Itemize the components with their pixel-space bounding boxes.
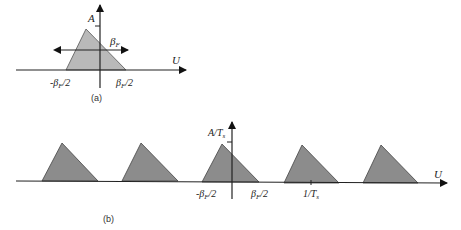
spectrum-replica-center [202, 144, 259, 182]
spectrum-replica [122, 143, 178, 181]
period-label: 1/Ts [303, 188, 319, 201]
spectrum-diagram: A βF U -βF/2 βF/2 (a) A/Ts U -βF/2 βF/2 … [0, 0, 461, 230]
left-band-edge-label: -βF/2 [196, 188, 216, 201]
u-axis-label: U [434, 168, 443, 180]
amplitude-label: A/Ts [207, 127, 225, 140]
bandwidth-label: βF [109, 35, 120, 49]
spectrum-replica [284, 145, 339, 183]
spectrum-replica [363, 145, 418, 183]
amplitude-label: A [87, 12, 95, 24]
caption-b: (b) [103, 214, 114, 224]
left-band-edge-label: -βF/2 [50, 77, 70, 90]
figure-a: A βF U -βF/2 βF/2 (a) [16, 5, 186, 103]
spectrum-replica [42, 143, 98, 181]
caption-a: (a) [91, 93, 102, 103]
right-band-edge-label: βF/2 [115, 77, 133, 90]
figure-b: A/Ts U -βF/2 βF/2 1/Ts (b) [16, 122, 447, 224]
right-band-edge-label: βF/2 [250, 188, 268, 201]
u-axis-label: U [172, 54, 181, 66]
